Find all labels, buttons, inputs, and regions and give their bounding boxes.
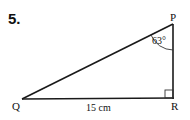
side-length-label: 15 cm [86, 102, 111, 113]
triangle-diagram: P Q R 63° 15 cm [0, 0, 190, 120]
vertex-label-r: R [171, 100, 179, 112]
right-angle-marker [165, 90, 173, 98]
vertex-label-p: P [170, 11, 176, 23]
angle-label: 63° [152, 35, 166, 46]
side-qr [22, 98, 174, 99]
side-qp [22, 24, 173, 99]
vertex-label-q: Q [12, 100, 20, 112]
